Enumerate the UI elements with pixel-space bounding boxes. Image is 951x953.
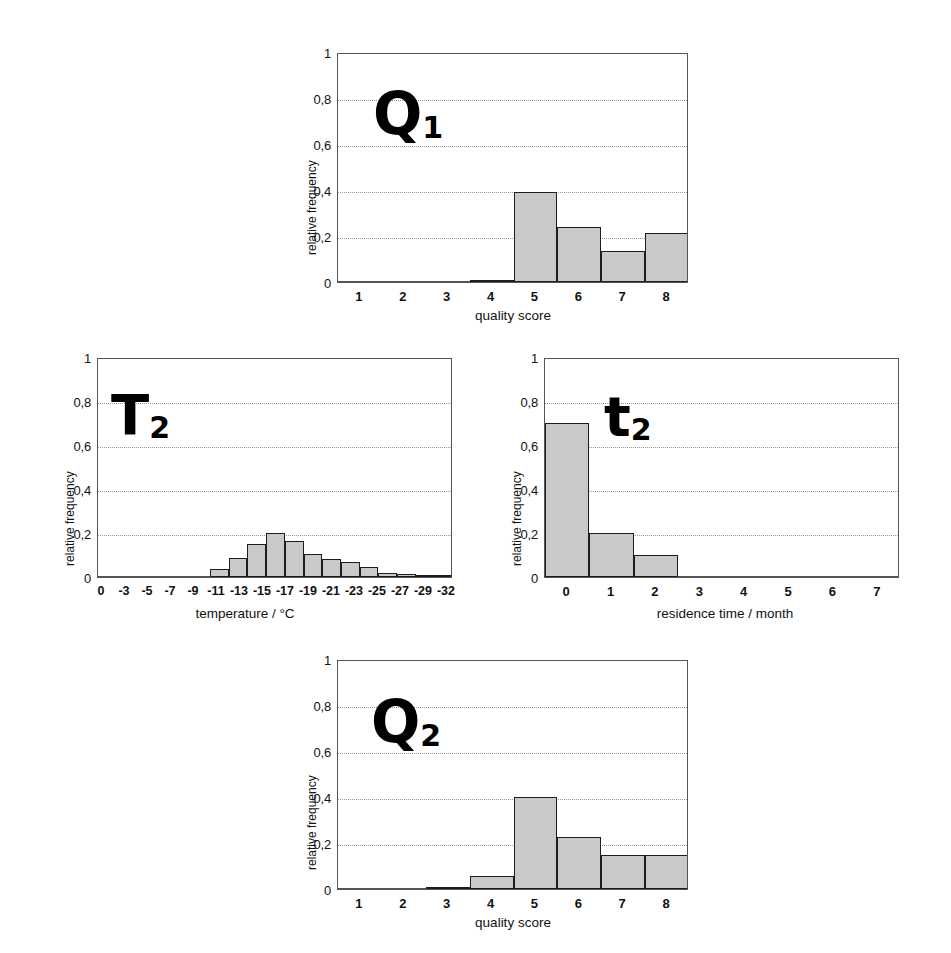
y-tick-label: 0,6 <box>74 439 91 454</box>
gridline <box>338 799 687 800</box>
x-tick-label: 5 <box>531 289 538 304</box>
x-tick-label: 4 <box>487 289 494 304</box>
y-tick-label: 1 <box>531 351 538 366</box>
q1-tag-subscript: 1 <box>422 110 442 145</box>
y-tick-label: 1 <box>324 653 331 668</box>
x-tick-label: 7 <box>619 896 626 911</box>
x-tick-label: 2 <box>399 289 406 304</box>
y-tick-label: 0,4 <box>314 791 331 806</box>
y-tick-label: 0 <box>531 571 538 586</box>
q1-panel-tag: Q1 <box>373 88 442 141</box>
x-tick-label: -11 <box>207 584 224 598</box>
y-tick-label: 0,8 <box>521 395 538 410</box>
x-tick-label: 5 <box>531 896 538 911</box>
x-tick-label: -21 <box>322 584 340 598</box>
t2temp-tag-subscript: 2 <box>149 410 169 445</box>
histogram-bar <box>416 575 435 577</box>
histogram-bar <box>210 569 229 577</box>
gridline <box>98 491 451 492</box>
x-tick-label: 3 <box>696 584 703 599</box>
q2-x-axis-label: quality score <box>475 915 551 930</box>
histogram-bar <box>229 558 248 577</box>
x-tick-label: -23 <box>345 584 363 598</box>
histogram-bar <box>341 562 360 577</box>
histogram-bar <box>634 555 678 577</box>
q2-y-axis-label: relative frequency <box>305 775 319 870</box>
t2res-plot-area <box>544 358 899 578</box>
histogram-bar <box>470 280 514 282</box>
y-tick-label: 0,4 <box>314 184 331 199</box>
x-tick-label: -5 <box>141 584 152 598</box>
y-tick-label: 0,2 <box>314 230 331 245</box>
histogram-bar <box>514 797 558 889</box>
panel-q2: relative frequency 00,20,40,60,81 123456… <box>295 648 705 938</box>
x-tick-label: -29 <box>414 584 432 598</box>
histogram-bar <box>426 887 470 889</box>
y-tick-label: 0,6 <box>521 439 538 454</box>
t2res-x-axis-label: residence time / month <box>657 606 794 621</box>
x-tick-label: -7 <box>164 584 175 598</box>
gridline <box>545 447 898 448</box>
histogram-bar <box>645 855 687 890</box>
x-tick-label: 4 <box>487 896 494 911</box>
x-tick-label: -19 <box>299 584 317 598</box>
histogram-bar <box>601 251 645 282</box>
y-tick-label: 0,2 <box>314 837 331 852</box>
gridline <box>98 447 451 448</box>
histogram-bar <box>557 837 601 889</box>
t2res-tag-base: t <box>604 384 630 449</box>
histogram-bar <box>601 855 645 890</box>
x-tick-label: 1 <box>355 289 362 304</box>
x-tick-label: -25 <box>368 584 386 598</box>
y-tick-label: 0,6 <box>314 138 331 153</box>
x-tick-label: 7 <box>873 584 880 599</box>
x-tick-label: -15 <box>253 584 271 598</box>
x-tick-label: 8 <box>662 896 669 911</box>
histogram-bar <box>378 573 397 577</box>
y-tick-label: 0,2 <box>74 527 91 542</box>
histogram-bar <box>304 554 323 577</box>
x-tick-label: -27 <box>391 584 409 598</box>
y-tick-label: 0,4 <box>521 483 538 498</box>
histogram-bar <box>545 423 589 577</box>
histogram-bar <box>397 574 416 577</box>
histogram-bar <box>285 541 304 577</box>
x-tick-label: 2 <box>399 896 406 911</box>
t2temp-panel-tag: T2 <box>111 390 169 441</box>
y-tick-label: 0 <box>324 883 331 898</box>
histogram-bar <box>266 533 285 577</box>
x-tick-label: 0 <box>98 584 105 598</box>
x-tick-label: -9 <box>187 584 198 598</box>
histogram-bar <box>645 233 687 282</box>
panel-q1: relative frequency 00,20,40,60,81 123456… <box>295 40 705 320</box>
histogram-bar <box>322 559 341 577</box>
x-tick-label: 8 <box>662 289 669 304</box>
panel-t2-residence: relative frequency 00,20,40,60,81 012345… <box>500 348 920 633</box>
t2res-tag-subscript: 2 <box>631 412 651 447</box>
x-tick-label: 6 <box>575 289 582 304</box>
q2-tag-base: Q <box>371 688 419 756</box>
histogram-bar <box>247 544 266 577</box>
q2-panel-tag: Q2 <box>371 696 440 749</box>
histogram-bar <box>434 575 451 577</box>
gridline <box>545 491 898 492</box>
histogram-bar <box>557 227 601 282</box>
y-tick-label: 0 <box>324 276 331 291</box>
y-tick-label: 0,8 <box>314 699 331 714</box>
y-tick-label: 0,6 <box>314 745 331 760</box>
y-tick-label: 0,2 <box>521 527 538 542</box>
x-tick-label: -32 <box>437 584 455 598</box>
t2temp-x-axis-label: temperature / °C <box>195 606 294 621</box>
x-tick-label: 1 <box>607 584 614 599</box>
histogram-bar <box>470 876 514 889</box>
gridline <box>545 403 898 404</box>
gridline <box>338 192 687 193</box>
y-tick-label: 0,8 <box>314 92 331 107</box>
histogram-bar <box>589 533 633 577</box>
q1-tag-base: Q <box>373 80 421 148</box>
t2res-panel-tag: t2 <box>604 392 651 443</box>
x-tick-label: 1 <box>355 896 362 911</box>
x-tick-label: 4 <box>740 584 747 599</box>
x-tick-label: -3 <box>118 584 129 598</box>
q2-tag-subscript: 2 <box>420 718 440 753</box>
